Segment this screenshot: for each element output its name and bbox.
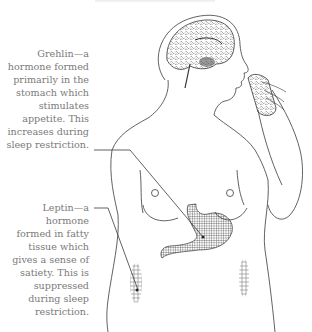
food-in-hand-illustration [248, 74, 286, 115]
fatty-tissue-illustration [130, 259, 249, 303]
brain-illustration [167, 20, 234, 88]
stomach-illustration [161, 204, 232, 258]
grehlin-leader-line [94, 150, 203, 237]
human-figure-illustration [0, 0, 312, 332]
stomach-pointer-dot [202, 236, 205, 239]
